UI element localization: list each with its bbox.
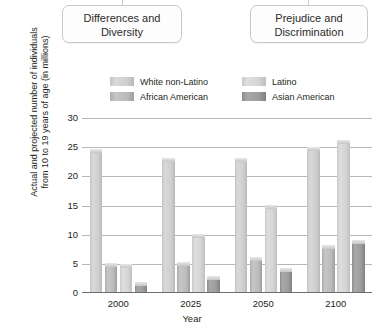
bar-cap xyxy=(280,268,293,272)
chart-plot-area xyxy=(82,118,372,293)
gridline xyxy=(82,147,372,148)
legend-swatch-icon-white-non-latino xyxy=(110,77,134,86)
bar-2100-asian-american xyxy=(352,240,365,293)
legend-swatch-icon-asian-american xyxy=(242,92,266,101)
callout-prejudice-and-discrimination[interactable]: Prejudice and Discrimination xyxy=(250,5,368,43)
bar-2100-white-non-latino xyxy=(307,147,320,292)
callout-differences-and-diversity[interactable]: Differences and Diversity xyxy=(62,5,182,43)
legend-swatch-icon-latino xyxy=(242,77,266,86)
x-tick-label: 2025 xyxy=(166,298,216,309)
x-tick-label: 2100 xyxy=(311,298,361,309)
bar-2025-asian-american xyxy=(207,276,220,292)
y-tick-label: 20 xyxy=(60,171,78,181)
legend-item-latino: Latino xyxy=(242,77,375,87)
gridline xyxy=(82,235,372,236)
bar-2100-african-american xyxy=(322,245,335,292)
bar-2000-african-american xyxy=(105,263,118,292)
legend-swatch-icon-african-american xyxy=(110,92,134,101)
bar-2025-african-american xyxy=(177,262,190,292)
bar-cap xyxy=(105,263,118,267)
bar-cap xyxy=(162,158,175,162)
gridline xyxy=(82,176,372,177)
bar-cap xyxy=(250,257,263,261)
x-axis-title: Year xyxy=(167,313,217,324)
bar-2025-white-non-latino xyxy=(162,158,175,292)
gridline xyxy=(82,118,372,119)
bar-cap xyxy=(177,262,190,266)
bar-cap xyxy=(322,245,335,249)
y-tick-label: 5 xyxy=(60,259,78,269)
x-tick-label: 2000 xyxy=(93,298,143,309)
bar-2025-latino xyxy=(192,234,205,292)
bar-cap xyxy=(120,264,133,268)
bar-2050-latino xyxy=(265,205,278,293)
bar-2000-white-non-latino xyxy=(90,149,103,292)
bar-2050-white-non-latino xyxy=(235,158,248,292)
legend-item-asian-american: Asian American xyxy=(242,92,375,102)
legend-label: White non-Latino xyxy=(140,77,208,87)
bar-cap xyxy=(207,276,220,280)
bar-2000-latino xyxy=(120,264,133,292)
y-axis-title: Actual and projected number of individua… xyxy=(29,27,53,197)
y-axis-ticks: 051015202530 xyxy=(60,118,78,293)
bar-2050-african-american xyxy=(250,257,263,292)
callout-label: Prejudice and Discrimination xyxy=(274,12,343,38)
legend-item-african-american: African American xyxy=(110,92,242,102)
bar-cap xyxy=(307,147,320,151)
bar-2100-latino xyxy=(337,140,350,292)
bar-cap xyxy=(265,205,278,209)
legend-label: African American xyxy=(140,92,208,102)
bar-cap xyxy=(337,140,350,144)
y-tick-label: 10 xyxy=(60,230,78,240)
legend-label: Latino xyxy=(272,77,297,87)
y-tick-label: 0 xyxy=(60,288,78,298)
callout-label: Differences and Diversity xyxy=(84,12,161,38)
legend-item-white-non-latino: White non-Latino xyxy=(110,77,242,87)
y-tick-label: 15 xyxy=(60,201,78,211)
bar-2000-asian-american xyxy=(135,282,148,293)
legend-label: Asian American xyxy=(272,92,335,102)
bar-cap xyxy=(90,149,103,153)
x-axis-line xyxy=(82,292,372,293)
y-tick-label: 30 xyxy=(60,113,78,123)
bar-cap xyxy=(235,158,248,162)
bar-cap xyxy=(192,234,205,238)
bar-cap xyxy=(352,240,365,244)
y-tick-label: 25 xyxy=(60,142,78,152)
bar-cap xyxy=(135,282,148,286)
chart-legend: White non-Latino Latino African American… xyxy=(110,74,375,104)
x-tick-label: 2050 xyxy=(238,298,288,309)
gridline xyxy=(82,206,372,207)
bar-2050-asian-american xyxy=(280,268,293,293)
